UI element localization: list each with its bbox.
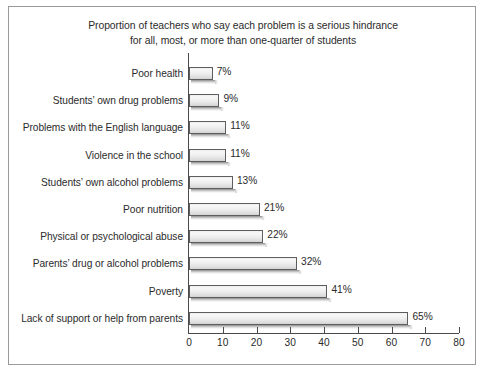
- axis-tick: [257, 327, 258, 333]
- bar-shadow: [191, 134, 228, 138]
- bar-row: Poor nutrition21%: [9, 199, 476, 227]
- bar-row: Parents’ drug or alcohol problems32%: [9, 253, 476, 281]
- axis-tick: [358, 327, 359, 333]
- bar-row: Violence in the school11%: [9, 145, 476, 173]
- bar-wrapper: [189, 176, 233, 194]
- bar-value-label: 21%: [264, 202, 284, 213]
- bar: [189, 203, 260, 216]
- bar-shadow: [191, 216, 262, 220]
- bar-wrapper: [189, 67, 213, 85]
- axis-tick-label: 0: [176, 337, 202, 348]
- bar-shadow: [191, 189, 235, 193]
- bar: [189, 257, 297, 270]
- bar-shadow: [191, 270, 299, 274]
- axis-tick: [392, 327, 393, 333]
- category-label: Students’ own drug problems: [53, 95, 183, 106]
- bar: [189, 285, 327, 298]
- bar-wrapper: [189, 94, 219, 112]
- category-label: Lack of support or help from parents: [21, 313, 183, 324]
- axis-tick-label: 20: [244, 337, 270, 348]
- axis-tick-label: 40: [311, 337, 337, 348]
- bar-row: Students’ own alcohol problems13%: [9, 172, 476, 200]
- axis-tick: [324, 327, 325, 333]
- bar-value-label: 13%: [237, 175, 257, 186]
- bar-value-label: 32%: [301, 256, 321, 267]
- bar-wrapper: [189, 285, 327, 303]
- bar: [189, 230, 263, 243]
- bar-value-label: 65%: [412, 311, 432, 322]
- category-label: Parents’ drug or alcohol problems: [33, 258, 183, 269]
- axis-tick-label: 60: [379, 337, 405, 348]
- bar-row: Poverty41%: [9, 281, 476, 309]
- bar-row: Students’ own drug problems9%: [9, 90, 476, 118]
- bar-wrapper: [189, 121, 226, 139]
- bar: [189, 67, 213, 80]
- axis-tick-label: 70: [412, 337, 438, 348]
- axis-tick-label: 50: [345, 337, 371, 348]
- plot-area: Poor health7%Students’ own drug problems…: [9, 7, 476, 365]
- axis-tick: [223, 327, 224, 333]
- bar-shadow: [191, 107, 221, 111]
- bar-row: Physical or psychological abuse22%: [9, 226, 476, 254]
- bar: [189, 121, 226, 134]
- category-label: Violence in the school: [85, 150, 183, 161]
- bar: [189, 176, 233, 189]
- bar-value-label: 11%: [230, 148, 250, 159]
- bar: [189, 312, 408, 325]
- bar-shadow: [191, 80, 215, 84]
- bar-value-label: 22%: [267, 229, 287, 240]
- axis-tick-label: 80: [446, 337, 472, 348]
- category-label: Problems with the English language: [23, 122, 183, 133]
- bar: [189, 94, 219, 107]
- bar-row: Poor health7%: [9, 63, 476, 91]
- bar-wrapper: [189, 230, 263, 248]
- bar-row: Problems with the English language11%: [9, 117, 476, 145]
- bar-shadow: [191, 325, 410, 329]
- bar-wrapper: [189, 257, 297, 275]
- bar-value-label: 7%: [217, 66, 232, 77]
- axis-tick: [290, 327, 291, 333]
- category-label: Poor nutrition: [123, 204, 183, 215]
- bar-shadow: [191, 243, 265, 247]
- bar-value-label: 11%: [230, 120, 250, 131]
- axis-tick: [425, 327, 426, 333]
- bar-value-label: 9%: [223, 93, 238, 104]
- category-label: Poor health: [131, 68, 183, 79]
- bar-wrapper: [189, 149, 226, 167]
- category-label: Students’ own alcohol problems: [41, 177, 183, 188]
- axis-tick-label: 30: [277, 337, 303, 348]
- bar-wrapper: [189, 203, 260, 221]
- bar-value-label: 41%: [331, 284, 351, 295]
- bar-shadow: [191, 298, 329, 302]
- category-label: Physical or psychological abuse: [40, 231, 183, 242]
- bar-row: Lack of support or help from parents65%: [9, 308, 476, 336]
- chart-frame: Proportion of teachers who say each prob…: [8, 6, 476, 365]
- axis-tick: [459, 327, 460, 333]
- bar-shadow: [191, 162, 228, 166]
- bar: [189, 149, 226, 162]
- axis-tick-label: 10: [210, 337, 236, 348]
- category-label: Poverty: [149, 286, 183, 297]
